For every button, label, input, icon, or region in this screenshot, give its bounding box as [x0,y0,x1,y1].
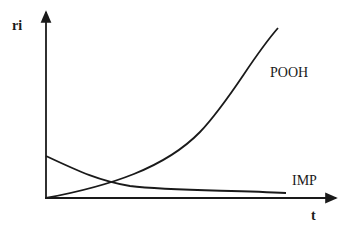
diagram-canvas: ri t POOH IMP [0,0,352,232]
y-axis-label: ri [12,18,22,33]
pooh-label: POOH [270,65,308,80]
imp-label: IMP [292,173,317,188]
x-axis-label: t [311,208,316,223]
imp-curve [46,156,286,193]
